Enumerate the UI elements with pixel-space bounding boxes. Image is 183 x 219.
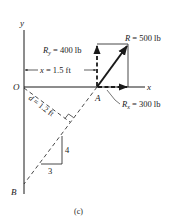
d-distance-label: d = 1.2 ft: [27, 93, 57, 118]
figure-caption: (c): [74, 207, 83, 216]
r-arrow: [97, 46, 127, 87]
r-label: R = 500 lb: [124, 33, 161, 43]
x-distance-label: x = 1.5 ft: [39, 65, 71, 75]
point-b-label: B: [11, 187, 17, 197]
rx-label: Rx = 300 lb: [121, 99, 160, 110]
force-diagram: y x O A B R = 500 lb Ry = 400 lb Rx = 30…: [0, 0, 183, 219]
ry-label: Ry = 400 lb: [42, 45, 81, 56]
right-angle-mark: [65, 114, 74, 119]
x-axis-label: x: [146, 82, 151, 92]
y-axis-label: y: [19, 18, 24, 28]
slope-rise-label: 4: [65, 145, 70, 155]
rx-leader: [107, 90, 120, 104]
slope-run-label: 3: [48, 166, 52, 176]
origin-label: O: [13, 82, 20, 92]
point-a-label: A: [94, 93, 101, 103]
